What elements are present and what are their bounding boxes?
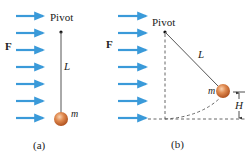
pivot-label-a: Pivot [50, 11, 73, 23]
force-label-a: F [5, 40, 12, 52]
length-label-a: L [63, 60, 70, 72]
force-arrows-a [16, 16, 43, 118]
pendulum-diagram: F Pivot L m (a) F Pivot L m [0, 0, 247, 156]
force-arrows-b [118, 16, 146, 118]
caption-b: (b) [171, 138, 184, 151]
pivot-label-b: Pivot [152, 16, 175, 28]
panel-b: F Pivot L m H (b) [106, 16, 247, 151]
length-label-b: L [197, 48, 204, 60]
mass-label-a: m [71, 108, 78, 119]
mass-ball-a [54, 112, 68, 126]
mass-label-b: m [208, 85, 215, 96]
mass-ball-b [216, 84, 230, 98]
caption-a: (a) [33, 139, 46, 152]
panel-a: F Pivot L m (a) [5, 11, 78, 152]
swing-arc-dashed [165, 98, 220, 119]
force-label-b: F [106, 38, 113, 50]
height-label: H [234, 99, 244, 111]
string-b [165, 32, 218, 86]
